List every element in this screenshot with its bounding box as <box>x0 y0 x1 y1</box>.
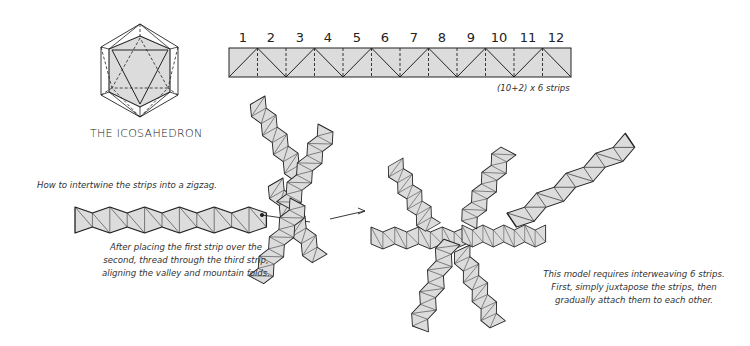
instruction-line: second, thread through the third strip, <box>86 254 286 267</box>
strip-number: 11 <box>514 30 542 45</box>
icosahedron-figure <box>101 24 178 117</box>
icosahedron-caption: THE ICOSAHEDRON <box>90 127 202 140</box>
numbered-strip <box>229 48 571 77</box>
zigzag-strip <box>75 207 266 233</box>
strip-number: 5 <box>343 30 371 45</box>
instruction-line: This model requires interweaving 6 strip… <box>528 268 740 281</box>
strip-number: 4 <box>314 30 342 45</box>
instruction-line: gradually attach them to each other. <box>528 294 740 307</box>
zigzag-caption: How to intertwine the strips into a zigz… <box>37 180 217 190</box>
strip-number: 6 <box>371 30 399 45</box>
instructions-right: This model requires interweaving 6 strip… <box>528 268 740 307</box>
arrow-lines <box>260 208 365 222</box>
strip-number: 3 <box>286 30 314 45</box>
instructions-left: After placing the first strip over the s… <box>86 241 286 280</box>
instruction-line: First, simply juxtapose the strips, then <box>528 281 740 294</box>
strip-number: 7 <box>400 30 428 45</box>
instruction-line: aligning the valley and mountain folds. <box>86 267 286 280</box>
strip-caption: (10+2) x 6 strips <box>497 83 570 93</box>
strip-number: 2 <box>257 30 285 45</box>
strip-number: 8 <box>428 30 456 45</box>
strip-number: 1 <box>229 30 257 45</box>
strip-number: 12 <box>542 30 570 45</box>
strip-number: 10 <box>485 30 513 45</box>
instruction-line: After placing the first strip over the <box>86 241 286 254</box>
strip-number: 9 <box>457 30 485 45</box>
